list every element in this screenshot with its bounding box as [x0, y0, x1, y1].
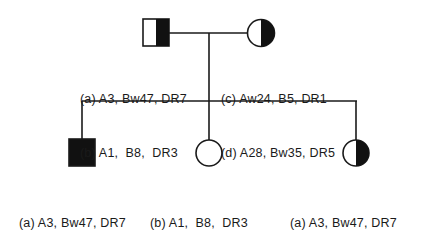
son-haplotypes: (a) A3, Bw47, DR7 (c) Aw24, B5,DR1 — [19, 178, 126, 232]
mother-symbol — [248, 20, 275, 47]
daughter-1-haplotype-1: (b) A1, B8, DR3 — [150, 214, 264, 232]
daughter-2-haplotypes: (a) A3, Bw47, DR7 (d) A28, Bw35, DR5 — [290, 178, 404, 232]
father-haplotype-1: (a) A3, Bw47, DR7 — [80, 90, 187, 108]
mother-haplotype-1: (c) Aw24, B5, DR1 — [221, 90, 335, 108]
daughter-2-symbol — [343, 140, 369, 166]
daughter-2-haplotype-1: (a) A3, Bw47, DR7 — [290, 214, 404, 232]
father-haplotypes: (a) A3, Bw47, DR7 (b) A1, B8, DR3 — [80, 54, 187, 180]
daughter-1-haplotypes: (b) A1, B8, DR3 (d) A28, Bw35, DR5 — [150, 178, 264, 232]
daughter-1-symbol — [196, 140, 222, 166]
mother-haplotype-2: (d) A28, Bw35, DR5 — [221, 144, 335, 162]
father-symbol — [143, 19, 169, 46]
son-haplotype-1: (a) A3, Bw47, DR7 — [19, 214, 126, 232]
mother-haplotypes: (c) Aw24, B5, DR1 (d) A28, Bw35, DR5 — [221, 54, 335, 180]
father-haplotype-2: (b) A1, B8, DR3 — [80, 144, 187, 162]
